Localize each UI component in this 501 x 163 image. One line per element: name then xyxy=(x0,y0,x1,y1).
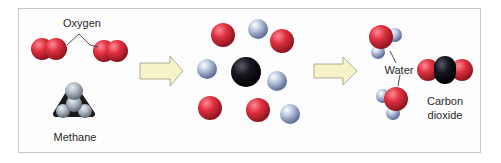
water-label: Water xyxy=(382,64,416,77)
water-molecule-bottom xyxy=(376,87,408,120)
oxygen-leader-line xyxy=(67,34,98,47)
arrow-icon xyxy=(314,57,357,85)
methane-label: Methane xyxy=(52,131,98,144)
carbon-dioxide-molecule xyxy=(417,56,473,84)
carbon-dioxide-label-line1: Carbon xyxy=(422,95,468,108)
carbon-dioxide-label-line2: dioxide xyxy=(422,109,468,122)
water-molecule-top xyxy=(369,25,402,59)
arrow-icon xyxy=(140,56,183,86)
methane-molecule xyxy=(56,82,92,118)
separated-atoms xyxy=(197,19,300,124)
oxygen-molecule-right xyxy=(93,40,128,62)
oxygen-molecule-left xyxy=(31,38,67,60)
water-leader-line xyxy=(390,51,396,63)
oxygen-label: Oxygen xyxy=(63,17,97,30)
